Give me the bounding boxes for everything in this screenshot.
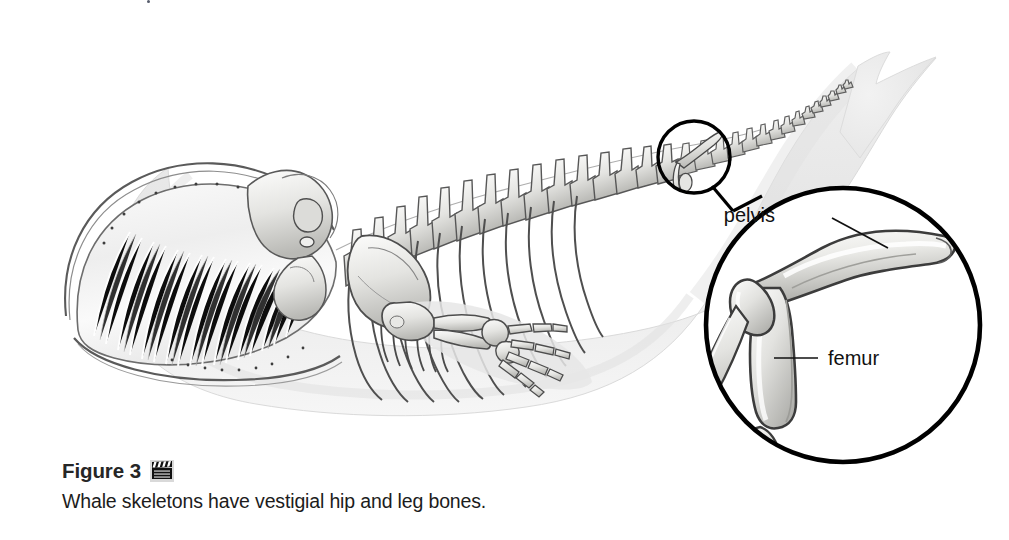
figure-caption-header: Figure 3 — [62, 458, 682, 484]
film-clapper-icon[interactable] — [150, 460, 174, 482]
figure-page: pelvis femur Figure 3 — [0, 0, 1009, 540]
femur-label: femur — [828, 347, 879, 369]
figure-caption-block: Figure 3 Whale sk — [62, 458, 682, 513]
figure-caption-text: Whale skeletons have vestigial hip and l… — [62, 489, 682, 513]
pelvis-label: pelvis — [724, 204, 775, 226]
figure-number-label: Figure 3 — [62, 459, 141, 483]
